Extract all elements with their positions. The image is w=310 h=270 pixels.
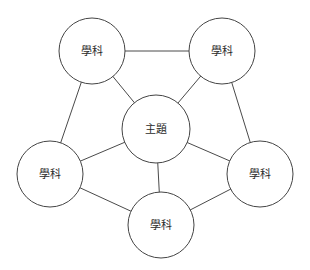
center-node[interactable]: 主題 [122,95,190,163]
outer-node-n-left[interactable]: 學科 [17,141,83,207]
concept-map-diagram: 學科學科學科學科學科主題 [0,0,310,270]
node-layer: 學科學科學科學科學科主題 [17,18,293,258]
edge-n-top-right-to-n-right [232,83,251,143]
edge-n-right-to-n-bottom [190,189,230,210]
outer-node-n-right[interactable]: 學科 [227,141,293,207]
edge-center-to-n-bottom [158,163,160,192]
outer-node-n-top-left[interactable]: 學科 [59,18,125,84]
concept-map-canvas: 學科學科學科學科學科主題 [0,0,310,270]
edge-center-to-n-top-left [113,77,134,103]
outer-node-n-top-right[interactable]: 學科 [189,18,255,84]
outer-node-label: 學科 [39,167,62,181]
edge-n-left-to-n-top-left [61,82,82,143]
outer-node-label: 學科 [81,44,104,58]
center-node-label: 主題 [145,123,168,136]
edge-center-to-n-top-right [178,76,201,103]
outer-node-label: 學科 [150,218,173,232]
edge-n-bottom-to-n-left [80,188,131,211]
edge-center-to-n-left [80,142,124,161]
outer-node-label: 學科 [211,44,234,58]
edge-center-to-n-right [187,143,230,161]
outer-node-n-bottom[interactable]: 學科 [128,192,194,258]
outer-node-label: 學科 [249,167,272,181]
